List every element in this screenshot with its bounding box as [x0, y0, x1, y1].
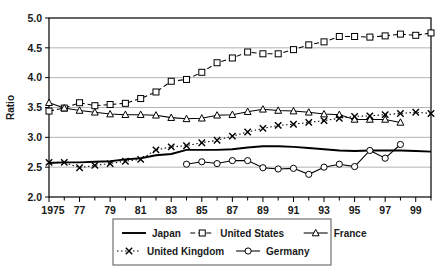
xtick-label: 95: [349, 204, 361, 216]
data-point-square-marker: [275, 51, 281, 57]
data-point-x-marker: [260, 125, 266, 131]
data-point-square-marker: [382, 33, 388, 39]
legend-label: United States: [220, 228, 284, 239]
ytick-label: 3.0: [27, 131, 42, 143]
series-france: [46, 99, 404, 125]
series-line: [49, 112, 431, 167]
data-point-circle-marker: [336, 161, 342, 167]
xtick-label: 87: [227, 204, 239, 216]
data-point-x-marker: [214, 137, 220, 143]
xtick-label: 99: [410, 204, 422, 216]
xtick-label: 81: [135, 204, 147, 216]
ytick-label: 4.5: [27, 42, 42, 54]
data-point-circle-marker: [245, 158, 251, 164]
legend-marker-circle: [245, 248, 251, 254]
ratio-line-chart: 5.04.54.03.53.02.52.01975777981838587899…: [0, 0, 445, 270]
data-point-circle-marker: [214, 160, 220, 166]
data-point-circle-marker: [352, 163, 358, 169]
xtick-label: 85: [196, 204, 208, 216]
legend-label: France: [334, 228, 367, 239]
data-point-circle-marker: [275, 166, 281, 172]
data-point-square-marker: [229, 55, 235, 61]
xtick-label: 83: [165, 204, 177, 216]
legend-label: Japan: [152, 228, 181, 239]
ytick-label: 2.0: [27, 191, 42, 203]
xtick-label: 91: [288, 204, 300, 216]
xtick-label: 97: [379, 204, 391, 216]
legend-box: [113, 219, 331, 265]
data-point-square-marker: [199, 69, 205, 75]
data-point-triangle-marker: [260, 106, 267, 112]
data-point-circle-marker: [229, 158, 235, 164]
data-point-square-marker: [168, 78, 174, 84]
ytick-label: 4.0: [27, 71, 42, 83]
data-point-circle-marker: [290, 165, 296, 171]
data-point-triangle-marker: [46, 99, 53, 105]
data-point-x-marker: [229, 133, 235, 139]
y-axis-label: Ratio: [5, 95, 16, 120]
legend-marker-square: [199, 230, 205, 236]
data-point-x-marker: [275, 122, 281, 128]
series-line: [49, 103, 400, 123]
xtick-label: 89: [257, 204, 269, 216]
data-point-x-marker: [244, 129, 250, 135]
data-point-square-marker: [214, 60, 220, 66]
data-point-square-marker: [245, 49, 251, 55]
legend-label: Germany: [266, 246, 310, 257]
legend-label: United Kingdom: [147, 246, 224, 257]
data-point-square-marker: [184, 76, 190, 82]
data-point-circle-marker: [397, 141, 403, 147]
data-point-circle-marker: [260, 165, 266, 171]
data-point-square-marker: [413, 32, 419, 38]
chart-container: 5.04.54.03.53.02.52.01975777981838587899…: [0, 0, 445, 270]
data-point-x-marker: [199, 140, 205, 146]
xtick-label: 79: [104, 204, 116, 216]
data-point-x-marker: [76, 165, 82, 171]
data-point-square-marker: [260, 51, 266, 57]
data-point-circle-marker: [367, 147, 373, 153]
data-point-square-marker: [138, 96, 144, 102]
data-point-circle-marker: [306, 171, 312, 177]
data-point-square-marker: [153, 89, 159, 95]
data-point-square-marker: [336, 33, 342, 39]
data-point-square-marker: [306, 42, 312, 48]
data-point-circle-marker: [321, 164, 327, 170]
xtick-label: 77: [74, 204, 86, 216]
data-point-circle-marker: [199, 159, 205, 165]
data-point-circle-marker: [382, 155, 388, 161]
data-point-square-marker: [122, 100, 128, 106]
data-point-square-marker: [107, 102, 113, 108]
data-point-square-marker: [321, 39, 327, 45]
data-point-square-marker: [352, 33, 358, 39]
data-point-square-marker: [397, 31, 403, 37]
series-united-states: [46, 30, 434, 114]
ytick-label: 5.0: [27, 12, 42, 24]
data-point-circle-marker: [183, 161, 189, 167]
data-point-square-marker: [290, 47, 296, 53]
xtick-label: 93: [318, 204, 330, 216]
data-point-square-marker: [46, 108, 52, 114]
data-point-square-marker: [77, 100, 83, 106]
data-point-x-marker: [137, 156, 143, 162]
xtick-label: 1975: [41, 204, 65, 216]
series-line: [49, 33, 431, 111]
ytick-label: 2.5: [27, 161, 42, 173]
data-point-square-marker: [428, 30, 434, 36]
ytick-label: 3.5: [27, 101, 42, 113]
data-point-square-marker: [367, 34, 373, 40]
